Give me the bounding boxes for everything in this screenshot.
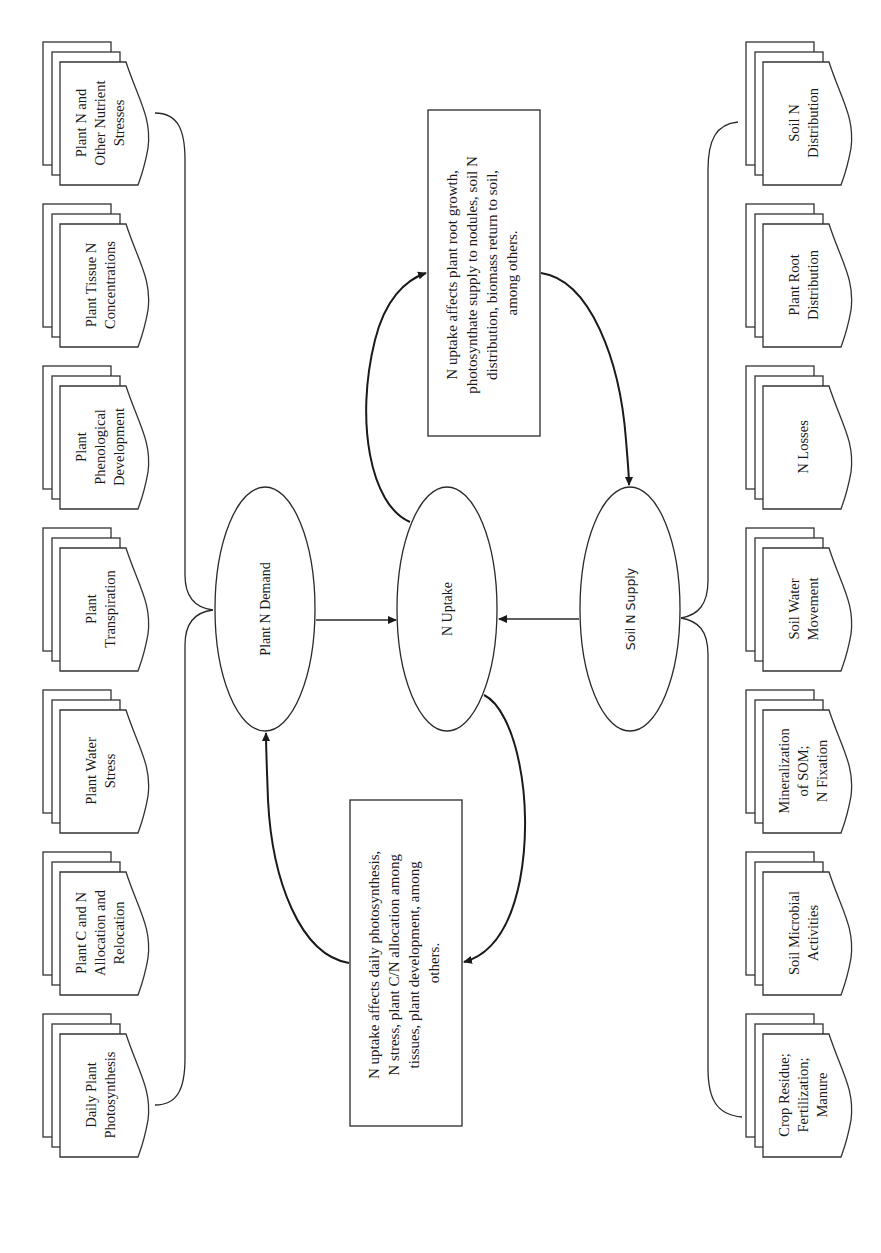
plant-factor-stack: PlantPhenologicalDevelopment [43,366,149,509]
plant-factor-label-line: Phenological [92,409,108,485]
arrow-bottom-box-to-demand [266,733,349,963]
plant-factor-label-line: Allocation and [92,889,108,976]
soil-factor-stacks: Soil NDistributionPlant RootDistribution… [746,42,852,1157]
node-plant-n-demand-label: Plant N Demand [258,562,273,655]
plant-factor-label: Plant C and NAllocation andRelocation [73,889,127,976]
node-n-uptake: N Uptake [397,487,497,731]
plant-factor-label-line: Photosynthesis [102,1051,118,1138]
plant-factor-label-line: Transpiration [102,569,118,647]
plant-factor-label-line: Plant C and N [73,892,89,974]
plant-factor-label-line: Plant Tissue N [83,242,99,327]
soil-factor-label: N Losses [795,420,811,474]
soil-factor-label-line: Distribution [805,249,821,320]
plant-factor-stack: Plant WaterStress [43,690,149,833]
soil-factors-brace [681,122,742,1117]
plant-factor-stacks: Plant N andOther NutrientStressesPlant T… [43,42,149,1157]
soil-factor-label-line: Plant Root [786,254,802,316]
bottom-box-line: N uptake affects daily photosynthesis, [366,851,382,1079]
bottom-box-line: N stress, plant C/N allocation among [386,854,402,1076]
top-box-line: distribution, biomass return to soil, [484,170,500,380]
soil-factor-stack: Plant RootDistribution [746,204,852,347]
soil-factor-label-line: Crop Residue; [776,1053,792,1136]
plant-factor-label-line: Stress [102,753,118,788]
arrow-top-box-to-soil-supply [541,273,629,485]
top-box-line: N uptake affects plant root growth, [444,170,460,380]
plant-factor-label-line: Daily Plant [83,1062,99,1128]
soil-factor-stack: Mineralizationof SOM;N Fixation [746,690,852,833]
plant-factor-label-line: Plant N and [73,88,89,157]
soil-factor-label-line: Movement [805,578,821,641]
bottom-box-line: tissues, plant development, among [406,861,422,1069]
soil-factor-label-line: Fertilization; [795,1058,811,1133]
plant-factor-stack: Plant N andOther NutrientStresses [43,42,149,185]
soil-factor-stack: N Losses [746,366,852,509]
plant-factors-brace [155,113,213,1105]
soil-factor-label-line: Activities [805,904,821,961]
arrow-uptake-to-top-box [366,273,426,522]
plant-factor-label-line: Other Nutrient [92,81,108,166]
plant-factor-stack: Daily PlantPhotosynthesis [43,1014,149,1157]
plant-factor-stack: PlantTranspiration [43,528,149,671]
soil-factor-label-line: of SOM; [795,745,811,796]
plant-factor-label-line: Concentrations [102,241,118,329]
soil-factor-label-line: Manure [814,1072,830,1117]
top-box-line: photosynthate supply to nodules, soil N [464,156,480,394]
bottom-box-line: others. [426,943,442,983]
arrow-uptake-to-bottom-box [464,695,525,962]
plant-factor-label-line: Plant [83,594,99,624]
soil-factor-label-line: N Losses [795,420,811,474]
node-plant-n-demand: Plant N Demand [215,487,315,731]
node-soil-n-supply: Soil N Supply [580,487,680,731]
soil-factor-label-line: Distribution [805,87,821,158]
soil-factor-label-line: Soil Microbial [786,891,802,975]
plant-factor-label-line: Plant [73,432,89,462]
plant-factor-label-line: Development [111,408,127,486]
soil-factor-stack: Crop Residue;Fertilization;Manure [746,1014,852,1157]
bottom-effect-box: N uptake affects daily photosynthesis, N… [350,800,462,1126]
node-soil-n-supply-label: Soil N Supply [623,567,638,650]
plant-factor-label-line: Plant Water [83,737,99,805]
node-n-uptake-label: N Uptake [440,582,455,636]
plant-factor-label-line: Relocation [111,901,127,965]
soil-factor-label-line: Soil Water [786,578,802,639]
soil-factor-stack: Soil NDistribution [746,42,852,185]
soil-factor-label-line: Soil N [786,104,802,142]
soil-factor-label-line: Mineralization [776,728,792,814]
top-effect-box: N uptake affects plant root growth, phot… [428,110,540,436]
soil-factor-stack: Soil MicrobialActivities [746,852,852,995]
soil-factor-stack: Soil WaterMovement [746,528,852,671]
top-box-line: among others. [504,231,520,316]
soil-factor-label-line: N Fixation [814,739,830,802]
plant-factor-stack: Plant Tissue NConcentrations [43,204,149,347]
plant-factor-label-line: Stresses [111,99,127,146]
nitrogen-uptake-diagram: Plant N Demand N Uptake Soil N Supply N … [0,0,881,1253]
plant-factor-stack: Plant C and NAllocation andRelocation [43,852,149,995]
